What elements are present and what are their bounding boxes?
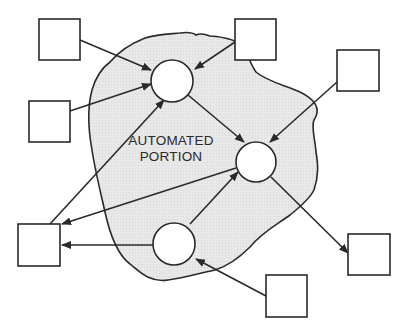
region-label-line-1: AUTOMATED bbox=[126, 133, 216, 149]
external-box-5 bbox=[18, 224, 60, 266]
diagram-canvas: AUTOMATED PORTION bbox=[0, 0, 411, 335]
external-box-1 bbox=[39, 19, 80, 60]
external-box-4 bbox=[337, 50, 379, 91]
region-label: AUTOMATED PORTION bbox=[126, 133, 216, 165]
edge-external-7-to-process-bottom bbox=[196, 259, 266, 296]
diagram-svg bbox=[0, 0, 411, 335]
external-box-3 bbox=[235, 19, 276, 60]
external-box-6 bbox=[348, 234, 390, 275]
process-circle-bottom bbox=[153, 223, 195, 265]
process-circle-right bbox=[236, 142, 276, 182]
external-box-7 bbox=[266, 275, 307, 317]
region-label-line-2: PORTION bbox=[126, 149, 216, 165]
external-box-2 bbox=[29, 101, 70, 142]
process-circle-top bbox=[151, 60, 193, 102]
